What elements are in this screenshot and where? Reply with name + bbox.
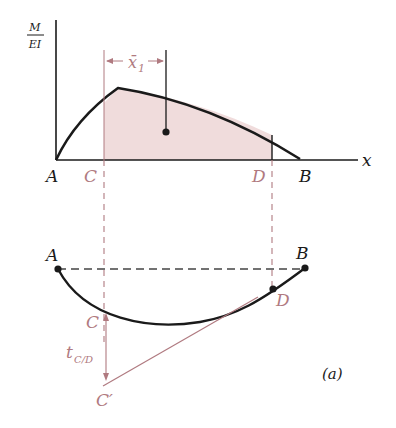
y-axis-label-numerator: M bbox=[28, 21, 41, 34]
moment-area-figure: M EI x x̄ 1 A C D B A B D C C′ t C/D (a) bbox=[0, 0, 396, 428]
xbar-label: x̄ bbox=[128, 53, 137, 72]
defl-label-c: C bbox=[86, 312, 99, 332]
centroid-dot bbox=[162, 128, 169, 135]
defl-label-a: A bbox=[44, 245, 58, 265]
defl-label-d: D bbox=[275, 290, 290, 310]
point-b-dot bbox=[301, 264, 308, 271]
m-label-c: C bbox=[84, 166, 97, 186]
tcd-subscript: C/D bbox=[74, 354, 93, 365]
point-a-dot bbox=[54, 265, 61, 272]
y-axis-label-denominator: EI bbox=[28, 38, 42, 51]
figure-caption: (a) bbox=[322, 365, 343, 383]
defl-label-c-prime: C′ bbox=[96, 390, 113, 410]
x-axis-label: x bbox=[362, 150, 372, 170]
xbar-subscript: 1 bbox=[138, 62, 145, 75]
tcd-arrowhead-down bbox=[103, 373, 109, 381]
m-label-d: D bbox=[251, 166, 266, 186]
shaded-area-c-to-d bbox=[104, 88, 272, 160]
tcd-label: t bbox=[66, 342, 73, 362]
xbar-arrowhead-left bbox=[106, 58, 113, 64]
tangent-line-d bbox=[103, 297, 258, 386]
defl-label-b: B bbox=[295, 243, 309, 263]
xbar-arrowhead-right bbox=[157, 58, 164, 64]
m-label-b: B bbox=[298, 166, 312, 186]
m-label-a: A bbox=[44, 166, 58, 186]
